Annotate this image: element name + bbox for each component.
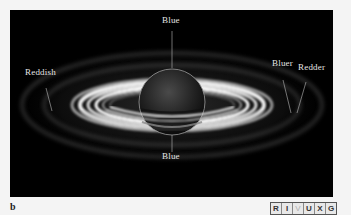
wavelength-badge: R I V U X G [270, 202, 337, 215]
planet-disk [139, 69, 205, 135]
saturn-illustration [10, 10, 333, 197]
badge-letter-u: U [304, 203, 315, 214]
panel-letter: b [10, 201, 16, 212]
image-panel: Blue Blue Reddish Bluer Redder [10, 10, 333, 197]
badge-letter-g: G [326, 203, 336, 214]
label-bluer: Bluer [272, 58, 293, 68]
label-redder: Redder [298, 62, 325, 72]
label-blue-bottom: Blue [162, 151, 180, 161]
label-blue-top: Blue [162, 15, 180, 25]
badge-letter-i: I [282, 203, 293, 214]
badge-letter-r: R [271, 203, 282, 214]
badge-letter-v: V [293, 203, 304, 214]
label-reddish: Reddish [25, 67, 56, 77]
badge-letter-x: X [315, 203, 326, 214]
